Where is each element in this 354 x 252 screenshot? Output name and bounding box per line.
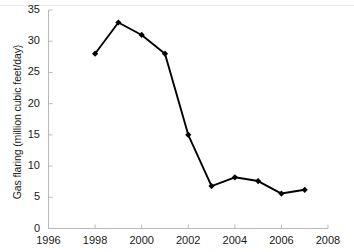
data-point-marker [208,183,214,189]
x-tick-label: 1996 [29,234,69,246]
line-chart: Gas flaring (million cubic feet/day) 051… [0,0,354,252]
chart-plot-area [0,0,354,252]
data-point-marker [232,174,238,180]
data-markers [92,19,308,196]
data-point-marker [302,187,308,193]
y-tick-label: 0 [14,222,40,234]
y-axis-ticks [49,10,53,229]
y-tick-label: 15 [14,128,40,140]
y-tick-label: 35 [14,3,40,15]
y-tick-label: 10 [14,159,40,171]
x-tick-label: 2000 [122,234,162,246]
x-tick-label: 2002 [168,234,208,246]
x-tick-label: 1998 [75,234,115,246]
y-tick-label: 20 [14,97,40,109]
data-line-gas-flaring [95,22,305,193]
x-tick-label: 2004 [215,234,255,246]
y-tick-label: 25 [14,65,40,77]
data-point-marker [185,132,191,138]
y-tick-label: 30 [14,34,40,46]
y-tick-label: 5 [14,190,40,202]
x-axis-ticks [49,225,329,229]
x-tick-label: 2008 [308,234,348,246]
x-tick-label: 2006 [261,234,301,246]
